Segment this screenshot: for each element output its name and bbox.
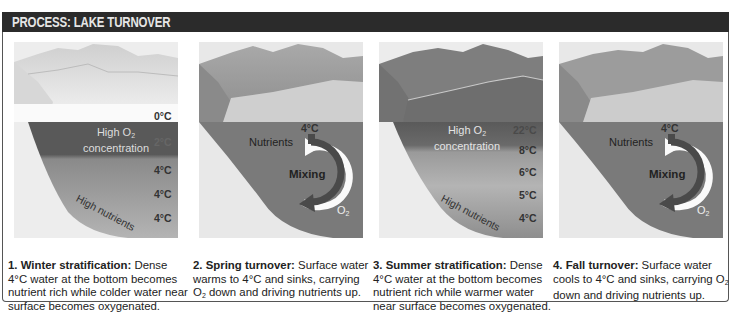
o2-label: O2	[337, 204, 349, 217]
caption-title: 3. Summer stratification:	[373, 259, 507, 271]
panel-summer: High O2 concentration 22°C 8°C 6°C 5°C 4…	[373, 42, 549, 256]
arrow-head-down	[659, 194, 675, 212]
temp-label: 4°C	[154, 164, 172, 176]
temp-label: 4°C	[154, 188, 172, 200]
temp-label: 0°C	[154, 110, 172, 122]
temp-label: 8°C	[519, 144, 537, 156]
temp-label: 2°C	[154, 136, 172, 148]
caption-winter: 1. Winter stratification: Dense 4°C wate…	[8, 259, 188, 313]
panel-fall: 4°C Nutrients Mixing O2 4. Fall turnover…	[553, 42, 729, 256]
temp-label: 6°C	[519, 166, 537, 178]
nutrients-label: Nutrients	[249, 136, 293, 148]
inflow-stub	[668, 134, 675, 144]
high-o2-label: High O2 concentration	[417, 124, 517, 153]
nutrients-label: Nutrients	[609, 136, 653, 148]
o2-label: O2	[697, 204, 709, 217]
high-o2-label: High O2 concentration	[66, 126, 166, 155]
temp-label: 22°C	[513, 124, 536, 136]
top-temp-label: 4°C	[301, 122, 319, 134]
panel-winter: High O2 concentration 0°C 2°C 4°C 4°C 4°…	[8, 42, 184, 256]
caption-title: 2. Spring turnover:	[193, 259, 295, 271]
caption-spring: 2. Spring turnover: Surface water warms …	[193, 259, 373, 303]
temp-label: 4°C	[519, 212, 537, 224]
mixing-label: Mixing	[289, 168, 325, 180]
figure-header: PROCESS: LAKE TURNOVER	[2, 12, 729, 32]
caption-title: 1. Winter stratification:	[8, 259, 131, 271]
inflow-stub	[308, 134, 315, 144]
mixing-label: Mixing	[649, 168, 685, 180]
caption-fall: 4. Fall turnover: Surface water cools to…	[553, 259, 731, 303]
caption-summer: 3. Summer stratification: Dense 4°C wate…	[373, 259, 553, 313]
arrow-head-down	[299, 194, 315, 212]
mixing-cycle	[553, 42, 729, 256]
temp-label: 4°C	[154, 212, 172, 224]
caption-title: 4. Fall turnover:	[553, 259, 638, 271]
temp-label: 5°C	[519, 189, 537, 201]
mixing-cycle	[193, 42, 369, 256]
top-temp-label: 4°C	[661, 122, 679, 134]
panel-spring: 4°C Nutrients Mixing O2 2. Spring turnov…	[193, 42, 369, 256]
figure-title: PROCESS: LAKE TURNOVER	[12, 14, 170, 30]
